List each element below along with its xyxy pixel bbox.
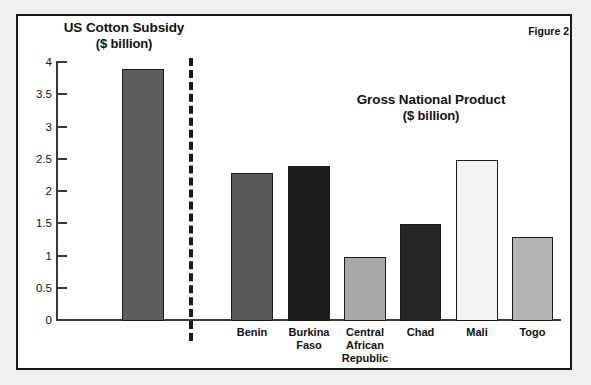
category-label-togo: Togo (500, 326, 565, 339)
y-tick-label-1: 1 (18, 250, 52, 262)
plot-area: 43.532.521.510.50 BeninBurkinaFasoCentra… (0, 0, 591, 385)
category-label-line: African (332, 339, 398, 352)
figure-root: Figure 2 US Cotton Subsidy ($ billion) G… (0, 0, 591, 385)
bar-us (122, 69, 164, 321)
y-tick-2 (58, 190, 67, 192)
y-tick-label-3: 3 (18, 121, 52, 133)
bar-car (344, 257, 386, 322)
y-tick-label-3-5: 3.5 (18, 88, 52, 100)
y-tick-1-5 (58, 222, 67, 224)
y-tick-3-5 (58, 93, 67, 95)
y-tick-4 (58, 61, 67, 63)
bar-mali (456, 160, 498, 321)
y-tick-label-4: 4 (18, 56, 52, 68)
y-tick-label-2-5: 2.5 (18, 153, 52, 165)
y-tick-0-5 (58, 287, 67, 289)
y-tick-3 (58, 126, 67, 128)
panel-divider-dashed-line (189, 58, 193, 341)
y-tick-0 (58, 319, 67, 321)
y-tick-label-2: 2 (18, 185, 52, 197)
bar-burkina (288, 166, 330, 321)
y-tick-label-0-5: 0.5 (18, 282, 52, 294)
bar-chad (400, 224, 441, 321)
y-axis-tick-labels: 43.532.521.510.50 (14, 0, 52, 385)
bar-benin (231, 173, 273, 321)
y-tick-2-5 (58, 158, 67, 160)
bar-togo (512, 237, 553, 321)
y-tick-label-0: 0 (18, 314, 52, 326)
category-label-line: Republic (332, 352, 398, 365)
y-tick-1 (58, 255, 67, 257)
y-tick-label-1-5: 1.5 (18, 217, 52, 229)
category-label-line: Togo (500, 326, 565, 339)
